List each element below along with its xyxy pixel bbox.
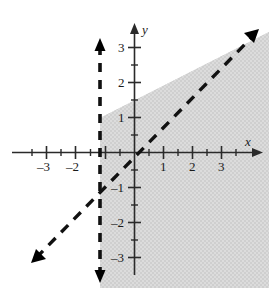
- y-axis-arrowhead: [130, 23, 139, 34]
- y-tick-label-3: 3: [118, 41, 125, 54]
- vertical-upper-arrowhead: [95, 38, 106, 51]
- graph-figure: –3 –2 1 2 3 3 2 1 –1 –2 –3 x y: [0, 0, 269, 288]
- x-tick-label-2: 2: [189, 160, 196, 173]
- diagonal-lower-arrowhead: [31, 249, 46, 263]
- coordinate-plane: [0, 0, 269, 288]
- x-tick-label-1: 1: [160, 160, 167, 173]
- x-tick-label-3: 3: [218, 160, 225, 173]
- shaded-solution-region-right: [100, 32, 269, 288]
- x-axis-label: x: [245, 135, 251, 148]
- y-axis-label: y: [142, 23, 148, 36]
- y-tick-label-neg3: –3: [111, 251, 124, 264]
- y-tick-label-2: 2: [118, 76, 125, 89]
- x-tick-label-neg3: –3: [37, 160, 50, 173]
- x-tick-label-neg2: –2: [66, 160, 79, 173]
- y-tick-label-neg1: –1: [111, 181, 124, 194]
- y-tick-label-neg2: –2: [111, 216, 124, 229]
- y-tick-label-1: 1: [118, 111, 125, 124]
